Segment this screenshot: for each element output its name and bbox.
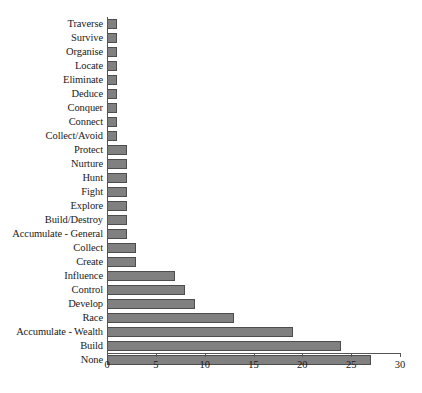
bar: [107, 215, 127, 225]
category-label: Organise: [0, 45, 103, 59]
category-label: Survive: [0, 31, 103, 45]
x-tick-label: 20: [287, 358, 317, 371]
bar: [107, 103, 117, 113]
bar: [107, 75, 117, 85]
bar-row: Organise: [0, 45, 422, 59]
bar-track: [107, 327, 293, 337]
category-label: Nurture: [0, 157, 103, 171]
bar: [107, 341, 341, 351]
category-label: Build: [0, 339, 103, 353]
bar-row: Develop: [0, 297, 422, 311]
bar-track: [107, 89, 117, 99]
x-tick-label: 5: [141, 358, 171, 371]
bar-row: Connect: [0, 115, 422, 129]
y-axis-line: [107, 17, 108, 354]
bar: [107, 61, 117, 71]
category-label: Explore: [0, 199, 103, 213]
category-label: Control: [0, 283, 103, 297]
x-tick-mark: [107, 353, 108, 357]
bar: [107, 313, 234, 323]
x-tick-mark: [302, 353, 303, 357]
bar: [107, 271, 175, 281]
category-label: Eliminate: [0, 73, 103, 87]
bar-row: Nurture: [0, 157, 422, 171]
bar-row: Explore: [0, 199, 422, 213]
bar: [107, 243, 136, 253]
bar-row: Create: [0, 255, 422, 269]
bar-row: Control: [0, 283, 422, 297]
x-tick-mark: [400, 353, 401, 357]
category-label: Conquer: [0, 101, 103, 115]
category-label: Create: [0, 255, 103, 269]
category-label: Connect: [0, 115, 103, 129]
bar-track: [107, 187, 127, 197]
bar-track: [107, 33, 117, 43]
bar: [107, 201, 127, 211]
x-tick-label: 30: [385, 358, 415, 371]
bar: [107, 131, 117, 141]
category-label: Accumulate - Wealth: [0, 325, 103, 339]
bar-row: Accumulate - General: [0, 227, 422, 241]
bar-track: [107, 103, 117, 113]
bar-row: Race: [0, 311, 422, 325]
bar: [107, 19, 117, 29]
bar-row: Hunt: [0, 171, 422, 185]
bar-row: Traverse: [0, 17, 422, 31]
bar: [107, 145, 127, 155]
bar: [107, 187, 127, 197]
category-label: Deduce: [0, 87, 103, 101]
x-tick-label: 0: [92, 358, 122, 371]
bar-track: [107, 159, 127, 169]
x-tick-label: 15: [239, 358, 269, 371]
bar: [107, 159, 127, 169]
bar-row: Locate: [0, 59, 422, 73]
bar-track: [107, 313, 234, 323]
bar: [107, 89, 117, 99]
category-label: Accumulate - General: [0, 227, 103, 241]
bar: [107, 327, 293, 337]
bar-track: [107, 257, 136, 267]
bar: [107, 257, 136, 267]
bar-track: [107, 285, 185, 295]
category-label: Build/Destroy: [0, 213, 103, 227]
bar-track: [107, 61, 117, 71]
bar-chart: TraverseSurviveOrganiseLocateEliminateDe…: [0, 0, 422, 393]
bar-track: [107, 117, 117, 127]
bar-row: Eliminate: [0, 73, 422, 87]
x-tick-mark: [351, 353, 352, 357]
category-label: Collect: [0, 241, 103, 255]
bar-row: Collect/Avoid: [0, 129, 422, 143]
category-label: Locate: [0, 59, 103, 73]
bar-track: [107, 271, 175, 281]
bar-track: [107, 229, 127, 239]
category-label: Traverse: [0, 17, 103, 31]
category-label: None: [0, 353, 103, 367]
bar-track: [107, 215, 127, 225]
bar-track: [107, 131, 117, 141]
category-label: Collect/Avoid: [0, 129, 103, 143]
bar-row: Accumulate - Wealth: [0, 325, 422, 339]
bar-track: [107, 145, 127, 155]
category-label: Develop: [0, 297, 103, 311]
bar-track: [107, 341, 341, 351]
category-label: Protect: [0, 143, 103, 157]
bar-track: [107, 299, 195, 309]
bar-row: Build/Destroy: [0, 213, 422, 227]
bar: [107, 117, 117, 127]
bar: [107, 33, 117, 43]
bar-row: Build: [0, 339, 422, 353]
bar-row: Fight: [0, 185, 422, 199]
bar-track: [107, 75, 117, 85]
x-tick-mark: [205, 353, 206, 357]
bar-row: Conquer: [0, 101, 422, 115]
category-label: Fight: [0, 185, 103, 199]
category-label: Hunt: [0, 171, 103, 185]
bar-row: Influence: [0, 269, 422, 283]
bar-track: [107, 243, 136, 253]
x-tick-label: 25: [336, 358, 366, 371]
bar-row: Collect: [0, 241, 422, 255]
bar-row: Survive: [0, 31, 422, 45]
bar-row: Deduce: [0, 87, 422, 101]
bar: [107, 229, 127, 239]
bar-track: [107, 19, 117, 29]
